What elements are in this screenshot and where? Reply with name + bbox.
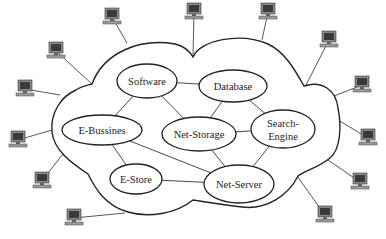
node-label: Net-Server <box>216 179 263 190</box>
node-e-store: E-Store <box>110 164 162 194</box>
computer-icon <box>316 206 334 222</box>
computer-icon <box>103 8 121 24</box>
node-label-line2: Engine <box>268 131 298 142</box>
node-search-engine: Search-Engine <box>251 110 315 148</box>
node-label: Net-Storage <box>174 129 225 140</box>
computer-icon <box>320 31 338 47</box>
node-label: Database <box>214 81 253 92</box>
computer-icon <box>9 131 27 147</box>
node-label: E-Store <box>120 174 152 185</box>
computer-icon <box>351 173 369 189</box>
computer-icon <box>359 129 377 145</box>
node-net-server: Net-Server <box>204 165 274 203</box>
node-net-storage: Net-Storage <box>162 117 236 151</box>
computer-icon <box>33 172 51 188</box>
cloud-network-diagram: SoftwareDatabaseE-BussinesNet-StorageSea… <box>0 0 386 239</box>
computer-icon <box>47 42 65 58</box>
computer-link <box>74 213 125 218</box>
computer-icon <box>65 209 83 225</box>
node-database: Database <box>199 70 267 102</box>
node-ellipse <box>251 110 315 148</box>
node-label: Software <box>128 76 166 87</box>
computer-icon <box>259 3 277 19</box>
computer-icon <box>185 3 203 19</box>
computer-icon <box>353 76 371 92</box>
node-software: Software <box>117 64 177 98</box>
node-label: E-Bussines <box>78 125 125 136</box>
computer-icon <box>16 80 34 96</box>
node-e-bussines: E-Bussines <box>62 115 142 145</box>
node-label: Search- <box>267 118 300 129</box>
